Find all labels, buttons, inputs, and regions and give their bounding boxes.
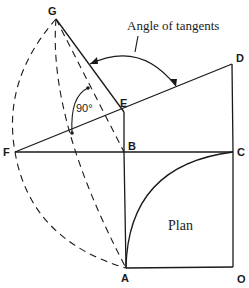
point-label-C: C [237, 146, 245, 158]
plan-label: Plan [168, 218, 193, 233]
point-label-E: E [120, 97, 127, 109]
dashed-arc-outer [12, 19, 126, 268]
point-label-B: B [128, 140, 136, 152]
annotation-pointer [135, 36, 138, 52]
dashed-G-B [56, 19, 124, 152]
annotation-label: Angle of tangents [127, 18, 219, 33]
tangent-angle-arc [90, 56, 176, 86]
angle-dot-lower [70, 131, 74, 135]
diagram-canvas: Angle of tangents 90° Plan G D E B C F A… [0, 0, 249, 288]
tangent-angle-diagram: Angle of tangents 90° Plan G D E B C F A… [0, 0, 249, 288]
point-label-F: F [3, 146, 10, 158]
angle-dot-upper [86, 86, 90, 90]
arrowhead-left [90, 57, 98, 64]
line-B-A [124, 152, 126, 268]
angle-label: 90° [76, 102, 93, 114]
point-label-A: A [121, 272, 129, 284]
line-G-E [56, 19, 124, 112]
line-A-O [126, 267, 233, 268]
arrowhead-right [170, 79, 177, 86]
point-label-D: D [236, 52, 244, 64]
line-C-D [232, 64, 233, 152]
plan-arc [126, 152, 233, 268]
point-label-G: G [48, 5, 57, 17]
point-label-O: O [237, 273, 246, 285]
